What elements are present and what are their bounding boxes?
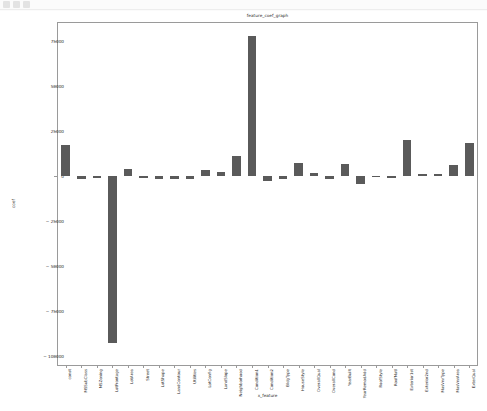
bar	[201, 170, 210, 176]
bar	[294, 163, 303, 176]
bar	[170, 176, 179, 179]
y-tick-mark	[54, 131, 57, 132]
x-tick-mark	[221, 365, 222, 368]
y-tick-mark	[54, 176, 57, 177]
pan-icon[interactable]	[23, 1, 30, 8]
y-tick-mark	[54, 266, 57, 267]
y-tick-mark	[54, 221, 57, 222]
bar	[108, 176, 117, 343]
bar	[325, 176, 334, 179]
figure-toolbar[interactable]	[0, 0, 487, 11]
x-tick-mark	[376, 365, 377, 368]
bar	[279, 176, 288, 179]
x-tick-mark	[345, 365, 346, 368]
bar	[387, 176, 396, 178]
bar	[124, 169, 133, 176]
y-tick-mark	[54, 86, 57, 87]
y-axis-label: coef	[11, 184, 16, 224]
bar	[356, 176, 365, 184]
bar	[139, 176, 148, 178]
y-tick-mark	[54, 311, 57, 312]
bar	[372, 176, 381, 177]
bar	[93, 176, 102, 178]
x-axis-label: x_feature	[57, 393, 478, 398]
chart-title: feature_coef_graph	[57, 13, 478, 18]
bar	[434, 174, 443, 176]
bar	[232, 156, 241, 176]
bar	[418, 174, 427, 176]
bar	[248, 36, 257, 176]
x-tick-mark	[314, 365, 315, 368]
save-icon[interactable]	[3, 1, 10, 8]
bar	[263, 176, 272, 181]
y-tick-mark	[54, 356, 57, 357]
x-tick-mark	[283, 365, 284, 368]
toolbar-icon-group[interactable]	[3, 1, 30, 8]
bar	[186, 176, 195, 179]
toolbar-divider	[0, 9, 487, 10]
y-tick-mark	[54, 41, 57, 42]
bar	[341, 164, 350, 176]
x-tick-mark	[407, 365, 408, 368]
x-tick-mark	[190, 365, 191, 368]
bar	[217, 172, 226, 177]
bar	[61, 145, 70, 176]
bar	[465, 143, 474, 176]
bar	[403, 140, 412, 176]
bar	[310, 173, 319, 176]
bar-series	[58, 23, 477, 365]
figure-canvas: feature_coef_graph 7500050000250000− 250…	[0, 11, 487, 411]
bar	[77, 176, 86, 179]
bar	[155, 176, 164, 179]
x-tick-mark	[252, 365, 253, 368]
bar	[449, 165, 458, 176]
zoom-icon[interactable]	[13, 1, 20, 8]
